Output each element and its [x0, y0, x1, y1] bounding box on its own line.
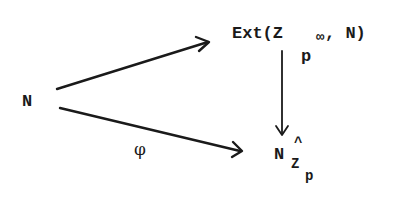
completion-subscript: Z: [291, 157, 299, 171]
completion-hat: ^: [294, 136, 302, 150]
completion-subsubscript: p: [305, 169, 313, 183]
ext-subscript-exp: ∞: [316, 30, 324, 44]
ext-suffix: , N): [325, 25, 366, 42]
ext-prefix: Ext(Z: [232, 25, 283, 42]
arrow-n-to-ext: [57, 42, 208, 89]
arrow-n-to-completion: [60, 108, 240, 151]
node-n: N: [22, 93, 32, 110]
completion-base: N: [274, 146, 284, 163]
arrow-label-phi: φ: [134, 141, 146, 158]
ext-subscript-base: p: [301, 48, 311, 65]
